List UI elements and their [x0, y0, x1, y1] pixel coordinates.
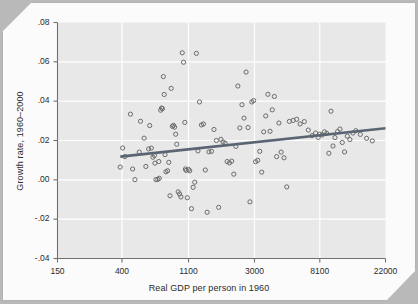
y-tick-label: -.04 [16, 253, 50, 263]
y-tick-label: .04 [16, 95, 50, 105]
x-tick-label: 8100 [298, 266, 342, 276]
scatter-plot-figure: Growth rate, 1960–2000 Real GDP per pers… [0, 0, 418, 304]
y-tick-label: -.02 [16, 213, 50, 223]
x-tick-label: 1100 [167, 266, 211, 276]
plot-svg [0, 0, 418, 304]
x-tick-label: 22000 [364, 266, 408, 276]
scanned-page: Growth rate, 1960–2000 Real GDP per pers… [0, 0, 418, 304]
y-tick-label: .08 [16, 17, 50, 27]
x-tick-label: 150 [36, 266, 80, 276]
x-axis-label: Real GDP per person in 1960 [0, 283, 418, 293]
y-tick-label: .02 [16, 135, 50, 145]
x-tick-label: 3000 [232, 266, 276, 276]
y-tick-label: .00 [16, 174, 50, 184]
x-tick-label: 400 [100, 266, 144, 276]
y-tick-label: .06 [16, 56, 50, 66]
